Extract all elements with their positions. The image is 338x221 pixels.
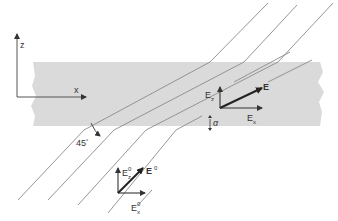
incident-field-vectors: Ez0 E0 Ex0 <box>118 165 158 215</box>
degree-symbol: ° <box>86 138 89 144</box>
e-label: E <box>263 82 269 92</box>
ez0-label: Ez0 <box>122 166 132 180</box>
ex0-label: Ex0 <box>131 201 141 215</box>
refraction-diagram: z x 45° <box>0 0 338 221</box>
refraction-angle-marker: α <box>208 115 219 131</box>
incidence-angle-value: 45 <box>76 138 86 148</box>
incidence-angle-marker: 45° <box>76 123 100 148</box>
e0-label: E0 <box>146 165 158 176</box>
svg-text:45°: 45° <box>76 138 89 148</box>
alpha-label: α <box>213 118 219 128</box>
x-axis-label: x <box>74 85 79 95</box>
z-axis-label: z <box>20 40 25 50</box>
